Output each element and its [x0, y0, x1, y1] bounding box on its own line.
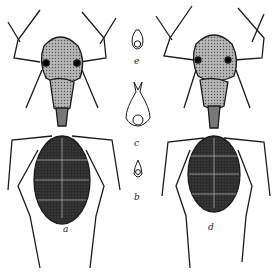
detail-e	[132, 30, 143, 49]
label-d: d	[208, 222, 214, 232]
label-a: a	[63, 224, 68, 234]
detail-c	[126, 82, 150, 126]
detail-b	[134, 160, 142, 177]
ant-illustration	[0, 0, 278, 273]
label-e: e	[134, 56, 139, 66]
label-c: c	[134, 138, 139, 148]
label-b: b	[134, 192, 140, 202]
illustration-canvas: e c b a d	[0, 0, 278, 273]
